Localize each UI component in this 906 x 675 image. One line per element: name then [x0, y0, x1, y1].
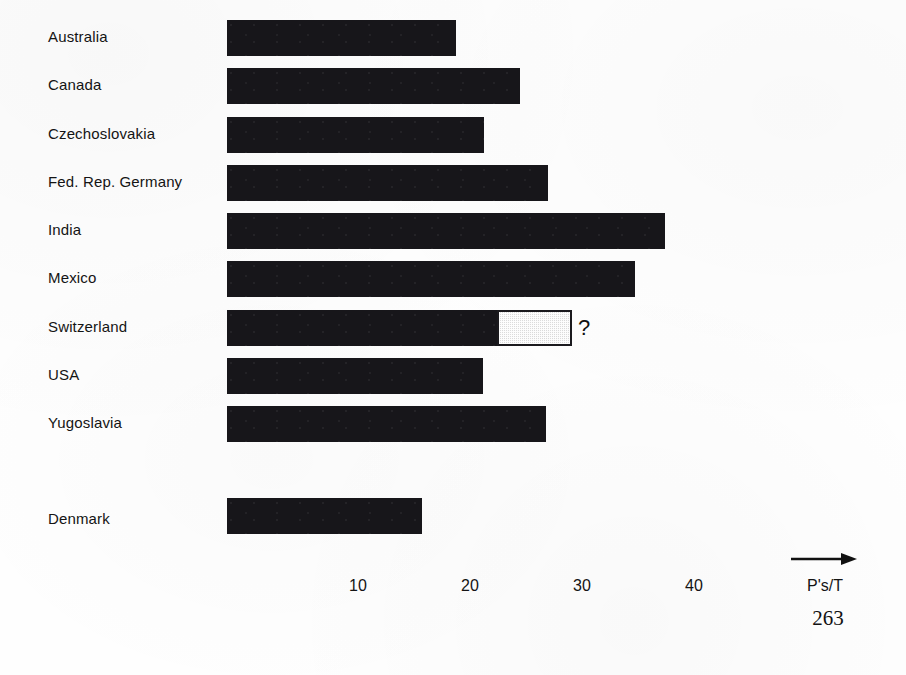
category-label-mexico: Mexico: [48, 270, 96, 285]
category-label-india: India: [48, 222, 81, 237]
x-axis-unit-label: P's/T: [807, 578, 843, 594]
bar-switzerland-question-marker: ?: [578, 317, 590, 339]
bar-india: [227, 213, 665, 249]
bar-canada: [227, 68, 520, 104]
bar-fed-rep-germany: [227, 165, 548, 201]
x-tick-label-30: 30: [573, 578, 591, 594]
right-arrow-icon: [791, 552, 857, 566]
category-label-yugoslavia: Yugoslavia: [48, 415, 122, 430]
bar-usa: [227, 358, 483, 394]
x-tick-label-20: 20: [461, 578, 479, 594]
bar-switzerland: [227, 310, 497, 346]
bar-yugoslavia: [227, 406, 546, 442]
bar-denmark: [227, 498, 422, 534]
bar-switzerland-estimate: [497, 310, 572, 346]
bar-chart-figure: Australia Canada Czechoslovakia Fed. Rep…: [0, 0, 906, 675]
category-label-usa: USA: [48, 367, 79, 382]
bar-australia: [227, 20, 456, 56]
page-number: 263: [812, 608, 844, 629]
x-tick-label-40: 40: [685, 578, 703, 594]
bar-mexico: [227, 261, 635, 297]
category-label-denmark: Denmark: [48, 511, 110, 526]
category-label-australia: Australia: [48, 29, 108, 44]
bar-czechoslovakia: [227, 117, 484, 153]
category-label-fed-rep-germany: Fed. Rep. Germany: [48, 174, 182, 189]
category-label-switzerland: Switzerland: [48, 319, 127, 334]
category-label-canada: Canada: [48, 77, 101, 92]
x-tick-label-10: 10: [349, 578, 367, 594]
category-label-czechoslovakia: Czechoslovakia: [48, 126, 155, 141]
